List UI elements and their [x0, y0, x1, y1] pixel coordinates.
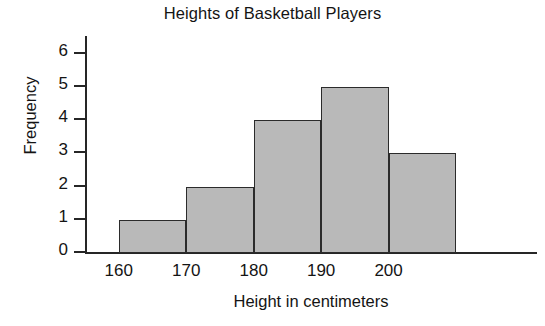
bar-200-210 [389, 153, 456, 253]
chart-title: Heights of Basketball Players [0, 4, 545, 23]
y-tick-5: 5 [74, 85, 85, 87]
y-axis-line [85, 36, 87, 254]
y-tick-label-3: 3 [46, 140, 68, 160]
plot-area: 0123456 160170180190200 [85, 36, 537, 253]
bar-190-200 [321, 87, 388, 253]
y-tick-label-1: 1 [46, 207, 68, 227]
y-tick-label-4: 4 [46, 107, 68, 127]
y-tick-label-5: 5 [46, 74, 68, 94]
x-axis-title: Height in centimeters [85, 292, 537, 311]
x-tick-label-160: 160 [96, 261, 142, 281]
y-tick-6: 6 [74, 52, 85, 54]
y-tick-label-2: 2 [46, 174, 68, 194]
x-tick-label-200: 200 [366, 261, 412, 281]
bar-170-180 [186, 187, 253, 253]
x-tick-label-180: 180 [231, 261, 277, 281]
bar-160-170 [119, 220, 186, 253]
y-tick-3: 3 [74, 151, 85, 153]
y-tick-0: 0 [74, 251, 85, 253]
y-tick-4: 4 [74, 118, 85, 120]
histogram-figure: Heights of Basketball Players Frequency … [0, 0, 545, 326]
bar-180-190 [254, 120, 321, 253]
y-tick-1: 1 [74, 218, 85, 220]
x-tick-label-170: 170 [163, 261, 209, 281]
y-tick-2: 2 [74, 185, 85, 187]
y-tick-label-6: 6 [46, 41, 68, 61]
y-axis-title: Frequency [21, 26, 40, 206]
y-tick-label-0: 0 [46, 240, 68, 260]
x-tick-label-190: 190 [298, 261, 344, 281]
